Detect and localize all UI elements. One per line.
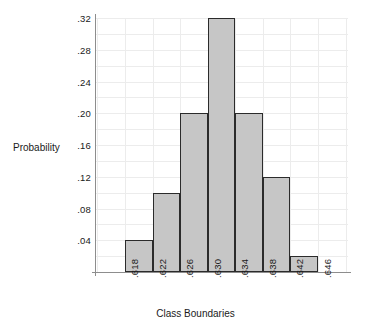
x-axis-tick-labels: .618.622.626.630.634.638.642.646	[0, 0, 391, 334]
x-axis-tick-label: .626	[184, 259, 195, 278]
x-axis-tick-label: .638	[267, 259, 278, 278]
x-axis-tick-label: .634	[239, 259, 250, 278]
x-axis-title: Class Boundaries	[0, 308, 391, 319]
x-axis-tick-label: .630	[212, 259, 223, 278]
x-axis-tick-label: .622	[157, 259, 168, 278]
histogram-figure: .04.08.12.16.20.24.28.32 Probability .61…	[0, 0, 391, 334]
x-axis-tick-label: .646	[322, 259, 333, 278]
x-axis-tick-label: .618	[129, 259, 140, 278]
x-axis-tick-label: .642	[294, 259, 305, 278]
